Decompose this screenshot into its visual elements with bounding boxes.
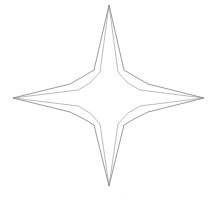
faint-caption-artifact: · ·· ··· ·· [95, 195, 151, 202]
figure-canvas: · ·· ··· ·· [0, 0, 216, 206]
four-pointed-star-figure [0, 0, 216, 206]
